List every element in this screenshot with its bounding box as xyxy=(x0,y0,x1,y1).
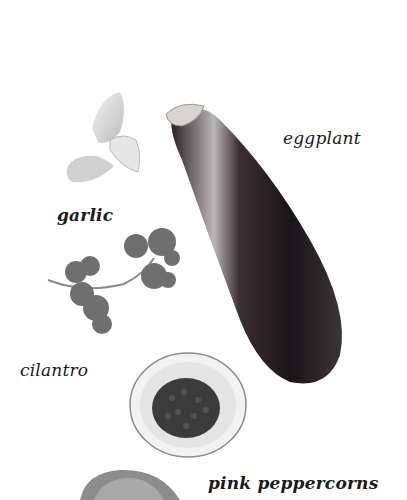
cilantro-illustration xyxy=(44,228,194,343)
peppercorn-bowl-illustration xyxy=(128,350,248,460)
label-pink-peppercorns: pink peppercorns xyxy=(208,473,378,493)
partial-bell-pepper-illustration xyxy=(80,468,190,500)
garlic-illustration xyxy=(62,88,152,188)
label-cilantro: cilantro xyxy=(20,360,88,380)
label-garlic: garlic xyxy=(57,205,113,225)
label-eggplant: eggplant xyxy=(283,128,361,148)
